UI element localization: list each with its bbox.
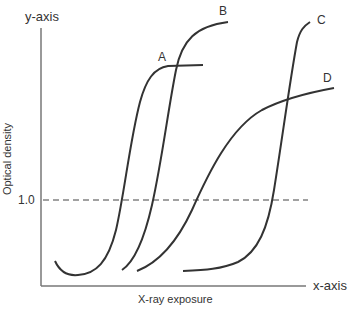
chart-canvas bbox=[0, 0, 348, 309]
x-axis-title: X-ray exposure bbox=[138, 293, 213, 305]
reference-line-label: 1.0 bbox=[18, 193, 35, 207]
y-axis-title: Optical density bbox=[1, 123, 13, 195]
curve-a-label: A bbox=[158, 50, 166, 64]
curve-a bbox=[55, 65, 203, 275]
y-axis-label: y-axis bbox=[25, 9, 59, 24]
curve-c-label: C bbox=[317, 13, 326, 27]
curve-b bbox=[122, 22, 228, 270]
curve-c bbox=[183, 22, 310, 271]
curve-d-label: D bbox=[323, 71, 332, 85]
curve-b-label: B bbox=[219, 4, 227, 18]
x-axis-label: x-axis bbox=[313, 278, 347, 293]
curve-d bbox=[137, 88, 334, 271]
